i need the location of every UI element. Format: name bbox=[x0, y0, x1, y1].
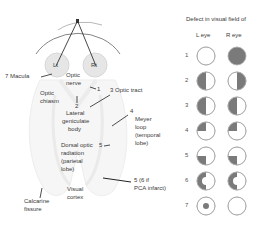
defect-row-number: 6 bbox=[185, 177, 188, 183]
defect-row-number: 1 bbox=[185, 52, 188, 58]
label-macula: 7 Macula bbox=[5, 73, 29, 80]
label-visual-cortex-2: cortex bbox=[67, 194, 83, 201]
visual-field-left-eye-4 bbox=[196, 121, 216, 141]
visual-field-left-eye-6 bbox=[196, 171, 216, 191]
right-eye-label: Rt bbox=[91, 62, 97, 69]
visual-field-right-eye-4 bbox=[227, 121, 247, 141]
label-num-4: 4 bbox=[130, 108, 133, 115]
label-pca-1: 5 (6 if bbox=[134, 177, 149, 184]
label-dorsal-1: Dorsal optic bbox=[61, 142, 93, 149]
label-calcarine-2: fissure bbox=[24, 206, 42, 213]
label-optic-nerve-2: nerve bbox=[66, 80, 81, 87]
label-optic-nerve-1: Optic bbox=[66, 72, 80, 79]
label-meyer-1: Meyer bbox=[135, 116, 152, 123]
label-dorsal-2: radiation bbox=[61, 150, 84, 157]
visual-field-left-eye-7 bbox=[196, 196, 216, 216]
label-optic-tract: 3 Optic tract bbox=[110, 87, 142, 94]
label-calcarine-1: Calcarine bbox=[24, 198, 49, 205]
label-lgb-2: geniculate bbox=[62, 118, 89, 125]
left-eye-label: Lt bbox=[53, 62, 58, 69]
visual-field-left-eye-5 bbox=[196, 146, 216, 166]
visual-field-left-eye-2 bbox=[196, 71, 216, 91]
defect-row-number: 7 bbox=[185, 202, 188, 208]
label-optic-chiasm-2: chiasm bbox=[40, 98, 59, 105]
visual-field-left-eye-1 bbox=[196, 46, 216, 66]
visual-field-right-eye-6 bbox=[227, 171, 247, 191]
label-num-2: 2 bbox=[75, 103, 78, 110]
visual-field-right-eye-2 bbox=[227, 71, 247, 91]
col-left-eye: L eye bbox=[196, 32, 210, 38]
defect-row-number: 5 bbox=[185, 152, 188, 158]
label-num-5: 5 bbox=[99, 142, 102, 149]
label-meyer-4: lobe) bbox=[135, 140, 148, 147]
label-lgb-1: Lateral bbox=[66, 110, 84, 117]
label-pca-2: PCA infarct) bbox=[134, 185, 166, 192]
visual-field-right-eye-7 bbox=[227, 196, 247, 216]
label-dorsal-3: (parietal bbox=[61, 158, 83, 165]
defect-row-number: 4 bbox=[185, 127, 188, 133]
visual-field-right-eye-1 bbox=[227, 46, 247, 66]
label-meyer-3: (temporal bbox=[135, 132, 160, 139]
label-visual-cortex-1: Visual bbox=[67, 186, 83, 193]
label-lgb-3: body bbox=[68, 126, 81, 133]
col-right-eye: R eye bbox=[226, 32, 242, 38]
label-dorsal-4: lobe) bbox=[61, 166, 74, 173]
visual-field-left-eye-3 bbox=[196, 96, 216, 116]
label-meyer-2: loop bbox=[135, 124, 146, 131]
defect-title: Defect in visual field of bbox=[186, 16, 246, 22]
label-num-1: 1 bbox=[97, 86, 100, 93]
visual-field-arc bbox=[36, 33, 120, 54]
defect-row-number: 2 bbox=[185, 77, 188, 83]
visual-field-right-eye-3 bbox=[227, 96, 247, 116]
label-optic-chiasm-1: Optic bbox=[40, 90, 54, 97]
defect-row-number: 3 bbox=[185, 102, 188, 108]
visual-field-right-eye-5 bbox=[227, 146, 247, 166]
